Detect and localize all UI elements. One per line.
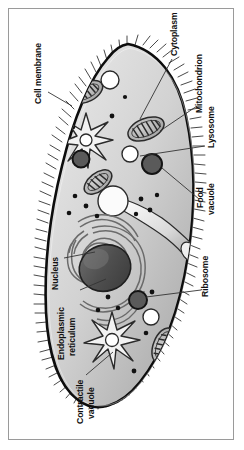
ribosome-dot [95, 214, 100, 219]
food-vacuole-1 [142, 154, 162, 174]
label-ribosome: Ribosome [200, 256, 210, 297]
ribosome-dot [139, 197, 144, 202]
ribosome-dot [123, 95, 127, 99]
ribosome-dot [148, 208, 153, 213]
label-nucleus: Nucleus [50, 257, 60, 290]
svg-text:vacuole: vacuole [206, 183, 216, 215]
ribosome-dot [134, 212, 138, 216]
svg-text:Food: Food [195, 187, 205, 208]
ribosome-dot [96, 308, 101, 313]
label-food-vacuole: Food vacuole [195, 183, 216, 215]
ribosome-dot [110, 114, 115, 119]
food-vacuole-3 [129, 291, 147, 309]
ribosome-dot [144, 331, 149, 336]
label-cell-membrane: Cell membrane [33, 43, 43, 104]
diagram-canvas: Cell membrane Cytoplasm Mitochondrion Ly… [0, 0, 244, 450]
svg-text:vacuole: vacuole [86, 387, 96, 419]
svg-text:reticulum: reticulum [67, 317, 77, 356]
ribosome-dot [150, 290, 155, 295]
leader-cell-membrane [48, 92, 72, 106]
ribosome-dot [155, 193, 159, 197]
ribosome-dot [67, 211, 72, 216]
lysosome-1 [101, 71, 119, 89]
label-lysosome: Lysosome [206, 106, 216, 148]
food-vacuole-2 [73, 151, 90, 168]
ribosome-dot [84, 204, 89, 209]
label-mitochondrion: Mitochondrion [194, 54, 204, 113]
paramecium-diagram: Cell membrane Cytoplasm Mitochondrion Ly… [0, 0, 244, 450]
ribosome-dot [132, 369, 137, 374]
ribosome-dot [116, 306, 121, 311]
label-cytoplasm: Cytoplasm [169, 12, 179, 56]
lysosome-3 [143, 309, 159, 325]
svg-text:Endoplasmic: Endoplasmic [56, 307, 66, 360]
lysosome-2 [122, 146, 138, 162]
svg-text:Contractile: Contractile [75, 379, 85, 424]
ribosome-dot [106, 295, 111, 300]
ribosome-dot [73, 194, 78, 199]
